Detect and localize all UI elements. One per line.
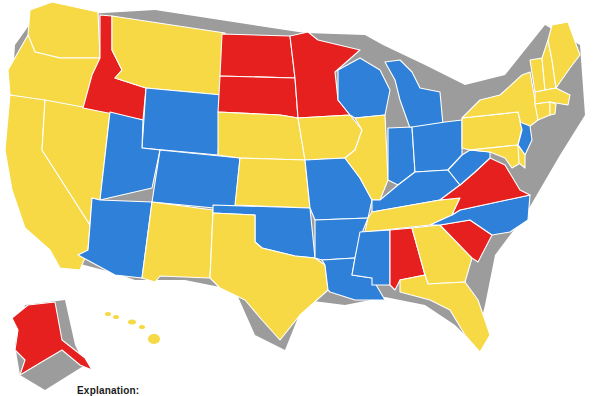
state-pa: [462, 112, 522, 150]
state-ks: [235, 158, 310, 208]
state-wa: [28, 2, 100, 58]
legend-title: Explanation:: [77, 385, 139, 396]
state-wy: [142, 88, 222, 155]
state-co: [152, 150, 240, 210]
state-sd: [218, 76, 298, 118]
state-ri: [550, 102, 556, 115]
state-nm: [142, 202, 213, 282]
state-hi: [105, 312, 160, 344]
state-ne: [218, 112, 305, 160]
state-nd: [220, 34, 295, 78]
